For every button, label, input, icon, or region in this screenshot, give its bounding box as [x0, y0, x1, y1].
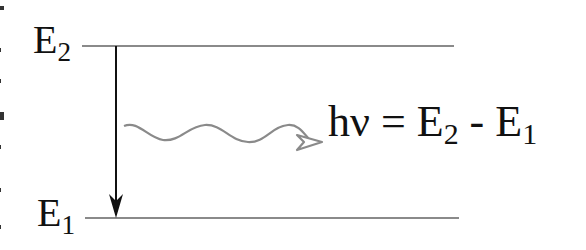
- photon-wave-icon: [124, 125, 322, 150]
- upper-level-label: E2: [33, 20, 71, 66]
- photon-energy-equation: hν = E2 - E1: [328, 100, 537, 149]
- energy-level-diagram: E2 E1 hν = E2 - E1: [0, 0, 586, 250]
- transition-arrow-icon: [109, 46, 123, 218]
- lower-level-label: E1: [37, 193, 75, 239]
